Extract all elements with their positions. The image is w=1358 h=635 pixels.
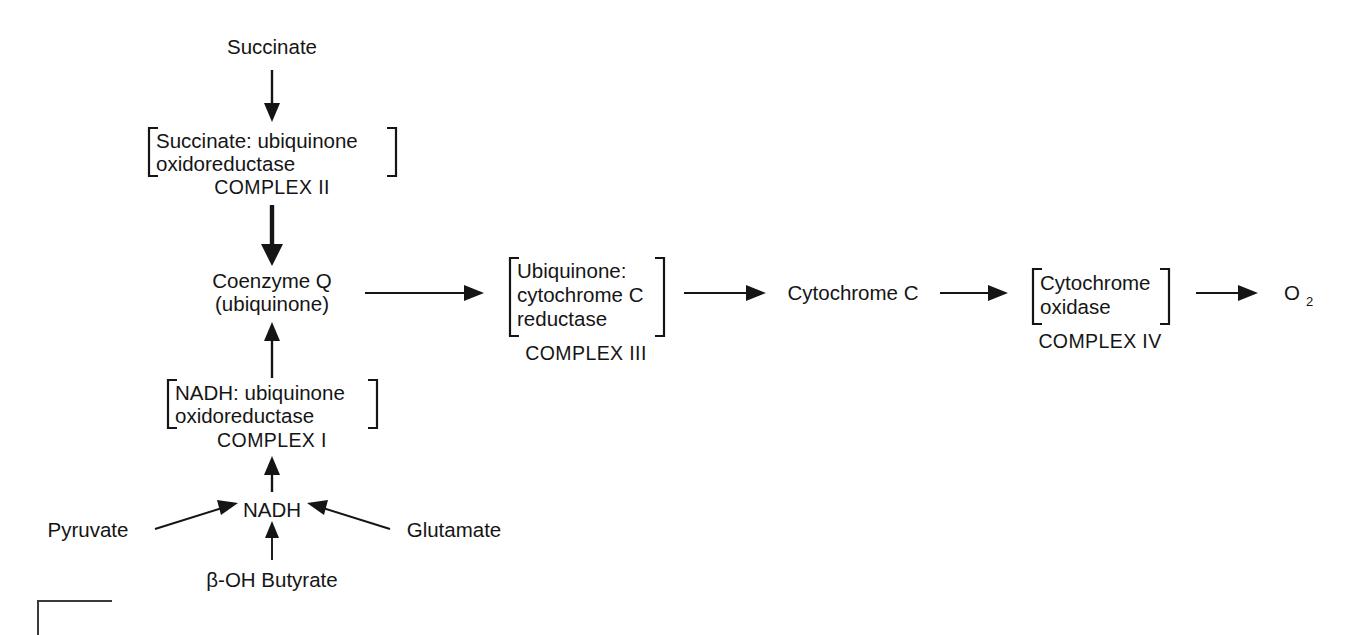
complex-4-enzyme-line-1: Cytochrome [1040,271,1151,294]
complex-4-enzyme-line-2: oxidase [1040,295,1111,318]
complex-1-enzyme-line-2: oxidoreductase [175,404,314,427]
node-boh-butyrate: β-OH Butyrate [206,568,337,591]
arrow-complex1-to-coq [264,322,280,378]
complex-1-label: COMPLEX I [217,429,327,451]
complex-2-enzyme-line-1: Succinate: ubiquinone [156,129,358,152]
electron-transport-chain-diagram: Succinate Succinate: ubiquinone oxidored… [0,0,1358,635]
arrow-coq-to-complex3 [365,285,484,301]
oxygen-symbol: O [1284,281,1300,304]
arrow-cytc-to-complex4 [940,285,1008,301]
arrow-complex2-to-coq [261,205,283,266]
bracket-right-complex-2 [387,128,396,176]
complex-2-label: COMPLEX II [214,176,330,198]
complex-1-group: NADH: ubiquinone oxidoreductase COMPLEX … [168,380,377,451]
complex-4-group: Cytochrome oxidase COMPLEX IV [1033,269,1169,352]
complex-2-enzyme-line-2: oxidoreductase [156,152,295,175]
oxygen-subscript: 2 [1306,294,1313,309]
node-glutamate: Glutamate [407,518,502,541]
complex-3-enzyme-line-1: Ubiquinone: [517,259,626,282]
complex-3-enzyme-line-3: reductase [517,307,607,330]
arrow-boh-butyrate-to-nadh [265,521,279,560]
bracket-right-complex-4 [1160,269,1169,324]
arrow-nadh-to-complex1 [264,456,280,492]
complex-3-enzyme-line-2: cytochrome C [517,283,644,306]
complex-2-group: Succinate: ubiquinone oxidoreductase COM… [149,128,396,198]
arrow-pyruvate-to-nadh [155,500,238,529]
complex-1-enzyme-line-1: NADH: ubiquinone [175,381,345,404]
node-coenzyme-q: Coenzyme Q (ubiquinone) [212,269,332,315]
arrow-succinate-to-complex2 [264,70,280,122]
coenzyme-q-line-2: (ubiquinone) [215,292,329,315]
bracket-right-complex-3 [655,258,664,336]
node-succinate: Succinate [227,35,317,58]
complex-3-label: COMPLEX III [525,342,646,364]
complex-3-group: Ubiquinone: cytochrome C reductase COMPL… [510,258,664,364]
node-cytochrome-c: Cytochrome C [787,281,918,304]
arrow-complex3-to-cytc [684,285,766,301]
complex-4-label: COMPLEX IV [1038,330,1161,352]
bracket-right-complex-1 [368,380,377,428]
coenzyme-q-line-1: Coenzyme Q [212,269,332,292]
arrow-glutamate-to-nadh [307,500,390,529]
node-nadh: NADH [243,498,301,521]
arrow-complex4-to-o2 [1196,285,1258,301]
diagram-page: Succinate Succinate: ubiquinone oxidored… [0,0,1358,635]
crop-mark [38,601,112,635]
node-pyruvate: Pyruvate [48,518,129,541]
node-oxygen: O 2 [1284,281,1313,309]
